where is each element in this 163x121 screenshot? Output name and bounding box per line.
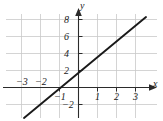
graph-figure: x y 8 6 4 2 −2 −3 −2 −1 1 2 3 <box>0 0 163 121</box>
y-tick-2: 2 <box>64 66 69 76</box>
x-tick-neg3: −3 <box>16 77 28 87</box>
y-axis-label: y <box>80 1 84 11</box>
y-axis <box>75 8 82 118</box>
coordinate-plane <box>0 0 163 121</box>
y-tick-4: 4 <box>64 49 69 59</box>
x-tick-neg2: −2 <box>35 77 47 87</box>
x-tick-1: 1 <box>95 92 100 102</box>
x-tick-3: 3 <box>133 92 138 102</box>
y-tick-6: 6 <box>64 32 69 42</box>
line-plot <box>24 17 146 118</box>
x-axis-label: x <box>153 79 157 89</box>
y-tick-8: 8 <box>64 15 69 25</box>
y-axis-ticks <box>79 20 83 105</box>
x-tick-2: 2 <box>114 92 119 102</box>
x-tick-neg1: −1 <box>54 92 66 102</box>
